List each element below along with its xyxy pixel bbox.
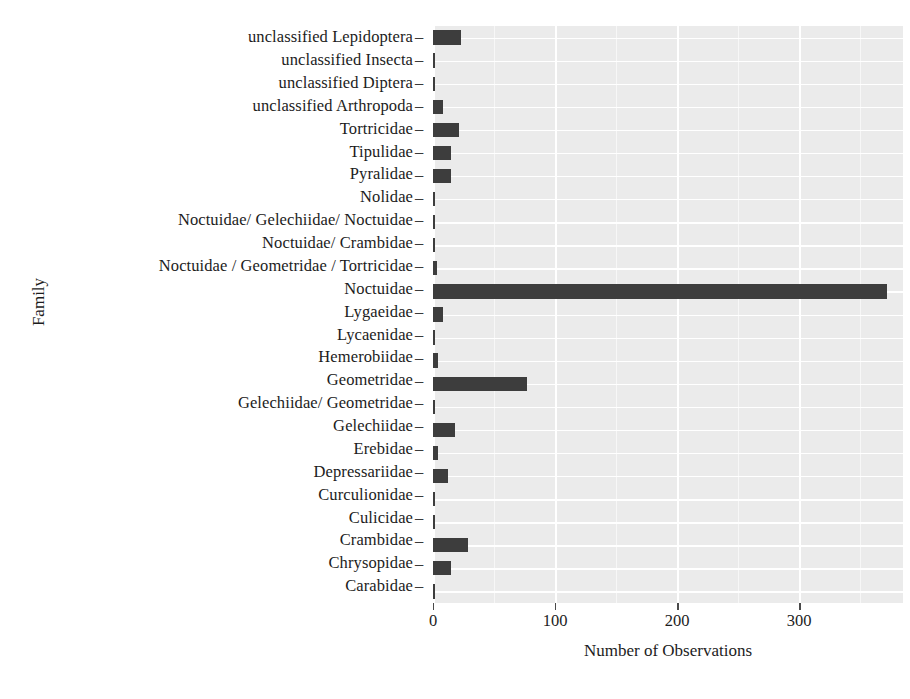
bar-row xyxy=(433,164,903,187)
y-axis-tick-label: unclassified Insecta xyxy=(281,52,413,69)
y-axis-tick: Curculionidae– xyxy=(40,484,425,507)
y-axis-tick-dash: – xyxy=(413,279,425,299)
x-axis-tick-marks xyxy=(433,603,903,610)
plot-panel xyxy=(433,26,903,603)
y-axis-tick-dash: – xyxy=(413,348,425,368)
y-axis-tick-label: Noctuidae / Geometridae / Tortricidae xyxy=(159,258,413,275)
bar xyxy=(433,192,435,206)
y-axis-tick-labels: unclassified Lepidoptera–unclassified In… xyxy=(40,26,425,598)
bar-chart: Family unclassified Lepidoptera–unclassi… xyxy=(0,0,910,699)
y-axis-tick-dash: – xyxy=(413,371,425,391)
bar xyxy=(433,215,435,229)
y-axis-tick-dash: – xyxy=(413,554,425,574)
bar-row xyxy=(433,580,903,603)
bar-row xyxy=(433,234,903,257)
y-axis-tick-label: Crambidae xyxy=(340,532,413,549)
bar-row xyxy=(433,372,903,395)
y-axis-tick-label: Geometridae xyxy=(327,372,413,389)
y-axis-tick: Noctuidae / Geometridae / Tortricidae– xyxy=(40,255,425,278)
bar xyxy=(433,561,451,575)
bar xyxy=(433,30,461,44)
y-axis-tick: Depressariidae– xyxy=(40,461,425,484)
bar xyxy=(433,123,459,137)
y-axis-tick-label: Gelechiidae/ Geometridae xyxy=(238,395,413,412)
bar xyxy=(433,400,435,414)
y-axis-tick: Gelechiidae– xyxy=(40,415,425,438)
y-axis-tick-dash: – xyxy=(413,485,425,505)
y-axis-tick: Hemerobiidae– xyxy=(40,346,425,369)
y-axis-tick: Pyralidae– xyxy=(40,163,425,186)
bar-row xyxy=(433,303,903,326)
bar xyxy=(433,538,468,552)
y-axis-tick-label: Noctuidae/ Gelechiidae/ Noctuidae xyxy=(178,212,413,229)
bar-row xyxy=(433,534,903,557)
y-axis-tick-label: unclassified Lepidoptera xyxy=(248,29,413,46)
y-axis-tick: Erebidae– xyxy=(40,438,425,461)
y-axis-tick-label: Carabidae xyxy=(345,578,413,595)
y-axis-tick-dash: – xyxy=(413,188,425,208)
y-axis-tick-dash: – xyxy=(413,96,425,116)
y-axis-tick-label: Noctuidae/ Crambidae xyxy=(262,235,413,252)
bar-row xyxy=(433,188,903,211)
y-axis-tick-dash: – xyxy=(413,142,425,162)
y-axis-tick-label: Curculionidae xyxy=(318,487,413,504)
bar-row xyxy=(433,95,903,118)
y-axis-tick: unclassified Lepidoptera– xyxy=(40,26,425,49)
x-axis-tick-mark xyxy=(555,603,556,610)
x-axis-tick-label: 0 xyxy=(429,611,437,631)
bar xyxy=(433,146,451,160)
y-axis-tick: Noctuidae/ Gelechiidae/ Noctuidae– xyxy=(40,209,425,232)
bar xyxy=(433,284,887,298)
x-axis-tick-mark xyxy=(433,603,434,610)
y-axis-tick-label: Hemerobiidae xyxy=(318,349,413,366)
bar-row xyxy=(433,49,903,72)
y-axis-tick-dash: – xyxy=(413,119,425,139)
y-axis-tick-dash: – xyxy=(413,462,425,482)
y-axis-tick: Crambidae– xyxy=(40,529,425,552)
bar-row xyxy=(433,349,903,372)
bar-row xyxy=(433,326,903,349)
y-axis-tick: Lycaenidae– xyxy=(40,323,425,346)
y-axis-tick-label: Gelechiidae xyxy=(333,418,413,435)
y-axis-tick-label: Nolidae xyxy=(360,189,413,206)
y-axis-tick-label: Culicidae xyxy=(349,510,413,527)
y-axis-tick-label: Tipulidae xyxy=(349,144,413,161)
y-axis-tick: Chrysopidae– xyxy=(40,552,425,575)
bar-row xyxy=(433,464,903,487)
bar xyxy=(433,330,435,344)
y-axis-tick-dash: – xyxy=(413,27,425,47)
y-axis-tick-label: Lygaeidae xyxy=(344,304,413,321)
bar xyxy=(433,100,443,114)
y-axis-tick-dash: – xyxy=(413,73,425,93)
bar-row xyxy=(433,441,903,464)
bar-row xyxy=(433,26,903,49)
y-axis-tick-label: Chrysopidae xyxy=(328,555,413,572)
bar-row xyxy=(433,488,903,511)
y-axis-tick: Gelechiidae/ Geometridae– xyxy=(40,392,425,415)
x-axis-tick-label: 300 xyxy=(787,611,812,631)
y-axis-tick-label: Lycaenidae xyxy=(337,327,413,344)
bar-row xyxy=(433,511,903,534)
bar-row xyxy=(433,418,903,441)
y-axis-tick: Culicidae– xyxy=(40,506,425,529)
y-axis-tick-label: Tortricidae xyxy=(340,121,413,138)
y-axis-tick-dash: – xyxy=(413,393,425,413)
bar xyxy=(433,423,455,437)
y-axis-tick: unclassified Arthropoda– xyxy=(40,95,425,118)
y-axis-tick-dash: – xyxy=(413,325,425,345)
bar-row xyxy=(433,257,903,280)
y-axis-tick-dash: – xyxy=(413,233,425,253)
bar xyxy=(433,584,435,598)
y-axis-tick: Geometridae– xyxy=(40,369,425,392)
y-axis-tick-dash: – xyxy=(413,416,425,436)
y-axis-tick: Noctuidae– xyxy=(40,278,425,301)
y-axis-tick: Tortricidae– xyxy=(40,118,425,141)
bar xyxy=(433,307,443,321)
bar xyxy=(433,169,451,183)
y-axis-tick-label: Pyralidae xyxy=(350,166,413,183)
bar xyxy=(433,261,437,275)
y-axis-tick: Noctuidae/ Crambidae– xyxy=(40,232,425,255)
y-axis-tick: unclassified Diptera– xyxy=(40,72,425,95)
bar-row xyxy=(433,118,903,141)
bar-row xyxy=(433,557,903,580)
